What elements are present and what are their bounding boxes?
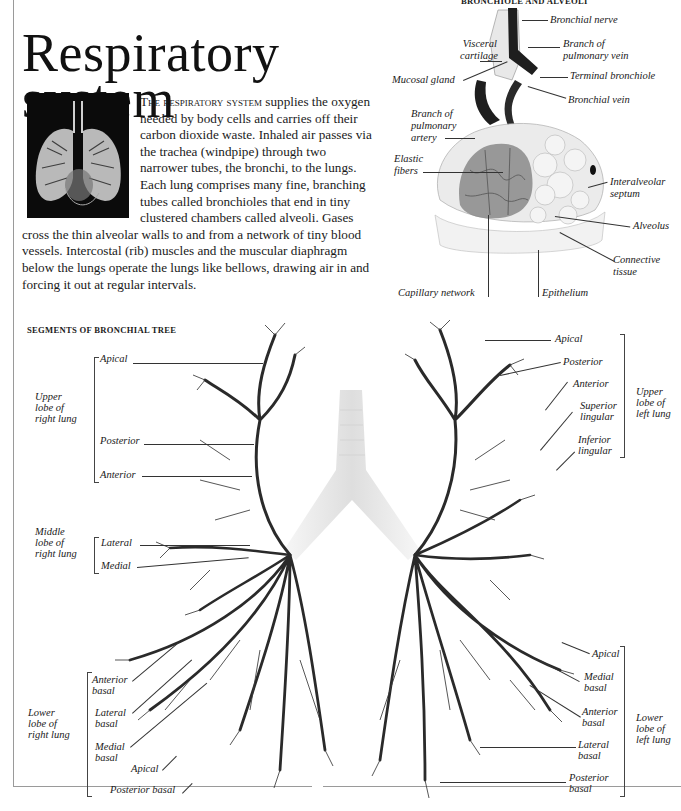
bracket-upper-lobe-left (620, 334, 625, 458)
label-elastic-fibers-2: fibers (394, 165, 418, 177)
label-left-apical-lower: Apical (592, 648, 619, 660)
label-bronchial-vein: Bronchial vein (568, 94, 630, 106)
leader-line (488, 215, 489, 297)
bronchial-tree-illustration (90, 310, 650, 810)
leader-line (445, 138, 475, 139)
leader-line (140, 545, 250, 546)
intro-paragraph: The respiratory system supplies the oxyg… (22, 94, 372, 293)
label-right-posterior-basal: Posterior basal (110, 784, 175, 796)
leader-line (440, 782, 566, 783)
label-branch-pulmonary-artery-3: artery (411, 132, 437, 144)
label-interalveolar-septum-1: Interalveolar (610, 176, 665, 188)
leader-line (528, 47, 560, 48)
label-bronchial-nerve: Bronchial nerve (550, 14, 618, 26)
label-right-anterior-basal-2: basal (92, 685, 115, 697)
label-right-posterior: Posterior (100, 435, 140, 447)
leader-line (480, 747, 576, 748)
label-left-posterior-basal-1: Posterior (569, 772, 609, 784)
label-terminal-bronchiole: Terminal bronchiole (570, 70, 655, 82)
leader-line (485, 340, 551, 341)
label-upper-lobe-right-3: right lung (35, 413, 77, 425)
label-mucosal-gland: Mucosal gland (392, 74, 455, 86)
label-elastic-fibers-1: Elastic (394, 153, 423, 165)
label-left-inferior-lingular-1: Inferior (578, 434, 611, 446)
label-interalveolar-septum-2: septum (610, 188, 640, 200)
label-left-medial-basal-2: basal (584, 682, 607, 694)
label-left-anterior-basal-1: Anterior (582, 706, 618, 718)
label-connective-tissue-2: tissue (613, 266, 637, 278)
leader-line (538, 250, 539, 297)
leader-line (423, 172, 503, 173)
label-epithelium: Epithelium (542, 287, 588, 299)
label-left-anterior: Anterior (573, 378, 609, 390)
label-right-lateral-basal-2: basal (95, 718, 118, 730)
label-left-superior-lingular-2: lingular (580, 411, 614, 423)
label-visceral-cartilage-2: cartilage (432, 50, 498, 62)
label-left-superior-lingular-1: Superior (580, 400, 617, 412)
label-middle-lobe-right-3: right lung (35, 548, 77, 560)
label-right-lateral: Lateral (101, 537, 132, 549)
label-left-apical: Apical (555, 333, 582, 345)
label-capillary-network: Capillary network (398, 287, 475, 299)
label-right-apical: Apical (100, 353, 127, 365)
leader-line (142, 476, 252, 477)
label-right-lateral-basal-1: Lateral (95, 707, 126, 719)
label-branch-pulmonary-vein-1: Branch of (563, 38, 605, 50)
label-branch-pulmonary-artery-1: Branch of (411, 108, 453, 120)
label-left-posterior: Posterior (563, 356, 603, 368)
label-lower-lobe-right-1: Lower (28, 707, 55, 719)
label-lower-lobe-right-3: right lung (28, 729, 70, 741)
label-alveolus: Alveolus (633, 220, 669, 232)
label-left-anterior-basal-2: basal (582, 717, 605, 729)
label-left-lateral-basal-2: basal (578, 750, 601, 762)
label-right-medial-basal-1: Medial (95, 741, 125, 753)
label-upper-lobe-left-2: lobe of (636, 397, 665, 409)
leader-line (144, 444, 254, 445)
leader-line (522, 20, 548, 21)
label-left-lateral-basal-1: Lateral (578, 739, 609, 751)
label-lower-lobe-left-2: lobe of (636, 723, 665, 735)
label-upper-lobe-left-1: Upper (636, 386, 663, 398)
label-lower-lobe-left-3: left lung (636, 734, 671, 746)
label-right-anterior: Anterior (100, 469, 136, 481)
label-middle-lobe-right-1: Middle (35, 526, 65, 538)
label-upper-lobe-left-3: left lung (636, 408, 671, 420)
label-right-anterior-basal-1: Anterior (92, 674, 128, 686)
label-left-posterior-basal-2: basal (569, 783, 592, 795)
label-left-medial-basal-1: Medial (584, 671, 614, 683)
label-left-inferior-lingular-2: lingular (578, 445, 612, 457)
label-upper-lobe-right-1: Upper (35, 391, 62, 403)
bracket-middle-lobe-right (94, 537, 99, 574)
label-lower-lobe-left-1: Lower (636, 712, 663, 724)
label-visceral-cartilage-1: Visceral (437, 38, 497, 50)
bracket-lower-lobe-left (620, 646, 625, 797)
label-right-medial: Medial (101, 560, 131, 572)
label-right-apical-lower: Apical (131, 763, 158, 775)
leader-line (133, 363, 263, 364)
label-branch-pulmonary-artery-2: pulmonary (411, 120, 457, 132)
page-border-left (13, 0, 14, 786)
leader-line (480, 61, 502, 62)
intro-lead: The respiratory system (140, 94, 262, 109)
leader-line (540, 77, 568, 78)
bracket-upper-lobe-right (94, 357, 99, 483)
label-lower-lobe-right-2: lobe of (28, 718, 57, 730)
label-branch-pulmonary-vein-2: pulmonary vein (563, 50, 629, 62)
label-connective-tissue-1: Connective (613, 254, 660, 266)
label-middle-lobe-right-2: lobe of (35, 537, 64, 549)
label-right-medial-basal-2: basal (95, 752, 118, 764)
label-upper-lobe-right-2: lobe of (35, 402, 64, 414)
